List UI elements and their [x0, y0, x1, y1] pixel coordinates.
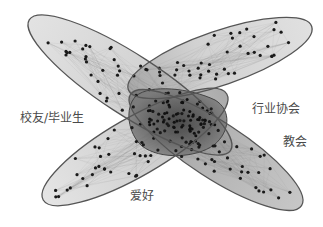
network-node — [101, 69, 104, 72]
network-node — [105, 99, 108, 102]
network-node — [54, 195, 57, 198]
network-node — [217, 129, 220, 132]
network-node — [218, 150, 221, 153]
network-node — [240, 170, 243, 173]
network-node — [158, 74, 161, 77]
network-node — [210, 158, 213, 161]
network-node — [65, 51, 68, 54]
core-node — [173, 121, 176, 124]
network-node — [99, 92, 102, 95]
network-node — [156, 149, 159, 152]
network-node — [196, 103, 199, 106]
network-node — [167, 124, 170, 127]
network-node — [200, 61, 203, 64]
network-node — [262, 190, 265, 193]
network-node — [157, 113, 160, 116]
label-industry-association: 行业协会 — [252, 103, 300, 115]
network-node — [239, 177, 242, 180]
network-node — [274, 21, 277, 24]
network-node — [109, 170, 112, 173]
network-cluster-diagram: 校友/毕业生 行业协会 教会 爱好 — [0, 0, 323, 227]
network-node — [270, 55, 273, 58]
network-node — [188, 74, 191, 77]
network-node — [245, 28, 248, 31]
core-node — [180, 101, 183, 104]
network-node — [178, 119, 181, 122]
network-node — [135, 140, 138, 143]
network-node — [57, 195, 60, 198]
network-node — [81, 47, 84, 50]
network-node — [266, 45, 269, 48]
network-node — [176, 61, 179, 64]
network-node — [239, 45, 242, 48]
network-node — [156, 127, 159, 130]
core-node — [148, 118, 151, 121]
network-node — [272, 28, 275, 31]
network-node — [174, 149, 177, 152]
core-node — [173, 126, 176, 129]
network-node — [127, 172, 130, 175]
network-node — [106, 97, 109, 100]
network-node — [187, 69, 190, 72]
network-node — [287, 41, 290, 44]
network-node — [208, 120, 211, 123]
network-node — [158, 71, 161, 74]
network-node — [198, 76, 201, 79]
network-node — [154, 99, 157, 102]
core-node — [192, 113, 195, 116]
network-node — [226, 156, 229, 159]
network-node — [103, 168, 106, 171]
core-node — [175, 119, 178, 122]
core-node — [189, 119, 192, 122]
network-node — [207, 70, 210, 73]
core-node — [175, 113, 178, 116]
network-node — [213, 160, 216, 163]
network-node — [130, 126, 133, 129]
core-node — [165, 111, 168, 114]
network-node — [288, 191, 291, 194]
network-node — [98, 146, 101, 149]
network-node — [263, 154, 266, 157]
network-node — [197, 131, 200, 134]
network-node — [90, 73, 93, 76]
network-node — [81, 177, 84, 180]
network-node — [161, 81, 164, 84]
network-node — [117, 65, 120, 68]
core-node — [204, 119, 207, 122]
network-node — [196, 157, 199, 160]
core-node — [161, 116, 164, 119]
network-node — [97, 165, 100, 168]
network-node — [85, 60, 88, 63]
network-node — [213, 144, 216, 147]
network-node — [69, 186, 72, 189]
label-hobby: 爱好 — [130, 190, 154, 202]
network-node — [147, 160, 150, 163]
network-node — [118, 69, 121, 72]
label-church: 教会 — [283, 136, 307, 148]
network-node — [93, 145, 96, 148]
network-node — [163, 129, 166, 132]
network-node — [254, 186, 257, 189]
network-node — [133, 152, 136, 155]
core-node — [188, 110, 191, 113]
network-node — [257, 171, 260, 174]
network-node — [277, 196, 280, 199]
network-node — [238, 31, 241, 34]
network-node — [259, 155, 262, 158]
network-node — [269, 188, 272, 191]
network-node — [84, 57, 87, 60]
network-node — [99, 155, 102, 158]
network-node — [47, 41, 50, 44]
core-node — [148, 123, 151, 126]
network-node — [149, 154, 152, 157]
core-node — [186, 98, 189, 101]
core-node — [182, 109, 185, 112]
network-node — [91, 173, 94, 176]
core-node — [194, 134, 197, 137]
network-node — [106, 137, 109, 140]
network-node — [202, 126, 205, 129]
network-node — [229, 168, 232, 171]
network-node — [182, 64, 185, 67]
network-node — [247, 52, 250, 55]
network-node — [197, 67, 200, 70]
